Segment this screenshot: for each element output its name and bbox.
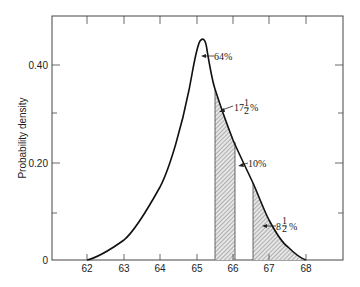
arrowhead-icon bbox=[238, 163, 244, 167]
y-tick-label-0: 0 bbox=[42, 255, 48, 266]
arrowhead-icon bbox=[201, 54, 206, 58]
annotation-8-5pct-sign: % bbox=[289, 221, 297, 232]
annotation-8-5pct-den: 2 bbox=[282, 223, 287, 234]
x-axis-top-ticks bbox=[87, 16, 306, 24]
x-tick-label-64: 64 bbox=[154, 263, 166, 274]
shaded-region-65_5-66 bbox=[215, 30, 235, 260]
x-tick-label-62: 62 bbox=[81, 263, 93, 274]
annotation-64pct-label: 64% bbox=[214, 51, 232, 62]
x-tick-label-67: 67 bbox=[263, 263, 275, 274]
y-axis-right-ticks bbox=[335, 65, 343, 213]
annotation-64pct: 64% bbox=[201, 51, 232, 62]
annotation-17-5pct-den: 2 bbox=[244, 105, 249, 116]
annotation-17-5pct-whole: 17 bbox=[234, 102, 244, 113]
y-axis-label: Probability density bbox=[17, 97, 28, 178]
annotation-17-5pct-sign: % bbox=[250, 102, 258, 113]
plot-frame bbox=[52, 16, 343, 260]
y-tick-label-0.40: 0.40 bbox=[29, 60, 49, 71]
y-axis-ticks bbox=[52, 65, 60, 213]
density-chart: 0.40 0.20 0 Probability density 62 63 64… bbox=[0, 0, 360, 287]
annotation-17-5pct: 17 1 2 % bbox=[219, 97, 258, 116]
y-tick-label-0.20: 0.20 bbox=[29, 158, 49, 169]
annotation-8-5pct-whole: 8 bbox=[276, 221, 281, 232]
x-tick-label-66: 66 bbox=[227, 263, 239, 274]
density-curve bbox=[87, 39, 306, 260]
annotation-10pct-label: 10% bbox=[248, 158, 266, 169]
x-tick-label-68: 68 bbox=[300, 263, 312, 274]
x-tick-label-65: 65 bbox=[191, 263, 203, 274]
x-tick-label-63: 63 bbox=[118, 263, 130, 274]
